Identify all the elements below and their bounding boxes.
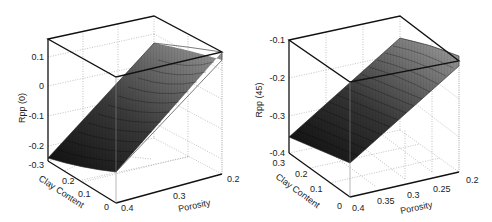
surface-rpp0: [48, 43, 222, 172]
y-tick: 0.2: [295, 169, 308, 179]
x-axis-label: Porosity: [399, 199, 433, 216]
y-tick: 0.1: [310, 184, 323, 194]
z-tick: -0.1: [269, 35, 285, 45]
x-tick: 0.35: [377, 196, 395, 206]
z-tick: -0.1: [28, 111, 44, 121]
z-tick: 0: [39, 81, 44, 91]
x-tick: 0.4: [121, 203, 134, 213]
z-tick: 0.1: [31, 52, 44, 62]
z-axis-label: Rpp (0): [17, 93, 27, 123]
z-tick: -0.3: [28, 160, 44, 170]
x-tick: 0.2: [466, 175, 479, 185]
y-tick: 0: [337, 201, 342, 211]
z-axis-label: Rpp (45): [254, 82, 264, 117]
z-tick: -0.3: [269, 111, 285, 121]
x-tick: 0.4: [352, 203, 365, 213]
y-tick: 0.3: [272, 158, 285, 168]
surface-rpp45: [289, 38, 459, 163]
z-tick: -0.2: [269, 73, 285, 83]
x-tick: 0.3: [407, 190, 420, 200]
x-tick: 0.25: [433, 184, 451, 194]
y-tick: 0.2: [62, 176, 75, 186]
x-tick: 0.3: [173, 191, 186, 201]
plot-rpp45: -0.1 -0.2 -0.3 -0.4 Rpp (45) 0.3 0.2 0.1…: [254, 16, 479, 216]
z-axis-ticks: 0.1 0 -0.1 -0.2 -0.3: [28, 52, 44, 170]
plot-rpp0: 0.1 0 -0.1 -0.2 -0.3 Rpp (0) 0.2 0.1 0 C…: [17, 16, 240, 214]
x-tick: 0.2: [227, 174, 240, 184]
z-tick: -0.2: [28, 141, 44, 151]
figure: 0.1 0 -0.1 -0.2 -0.3 Rpp (0) 0.2 0.1 0 C…: [0, 0, 492, 222]
z-tick: -0.4: [269, 148, 285, 158]
y-tick: 0: [104, 202, 109, 212]
z-axis-ticks: -0.1 -0.2 -0.3 -0.4: [269, 35, 285, 158]
